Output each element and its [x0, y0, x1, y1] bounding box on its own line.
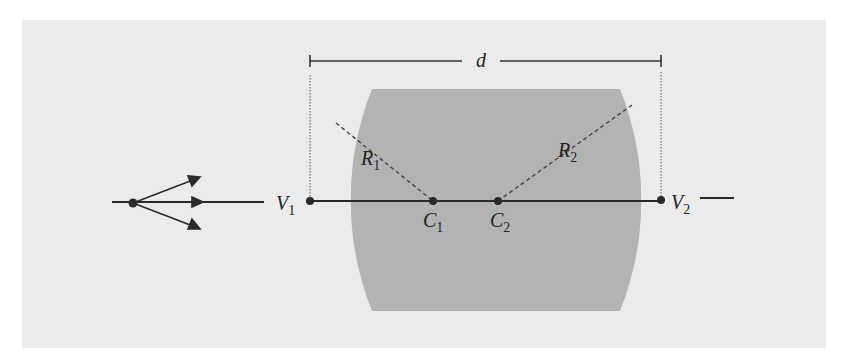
- vertex1-label: V1: [276, 192, 295, 218]
- center1-point: [429, 197, 437, 205]
- vertex2-label: V2: [671, 191, 690, 217]
- vertex2-point: [657, 196, 665, 204]
- vertex1-point: [306, 197, 314, 205]
- center2-point: [494, 197, 502, 205]
- thickness-label: d: [476, 49, 487, 71]
- thick-lens-diagram: d R1 R2 V1 V2 C1 C2: [0, 0, 848, 362]
- source-point: [129, 199, 138, 208]
